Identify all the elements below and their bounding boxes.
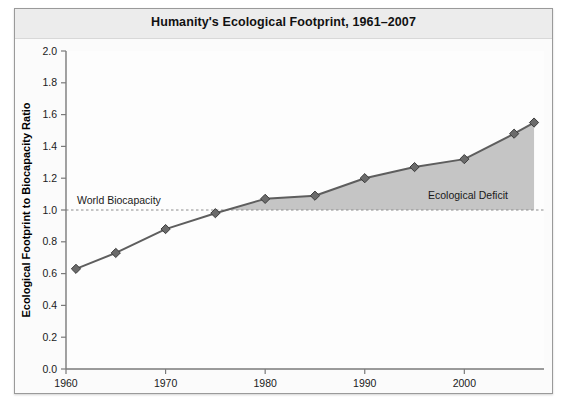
- y-axis-ticks: 0.00.20.40.60.81.01.21.41.61.82.0: [42, 45, 66, 375]
- svg-text:0.0: 0.0: [42, 363, 57, 375]
- svg-text:1960: 1960: [54, 377, 78, 389]
- svg-text:0.2: 0.2: [42, 331, 57, 343]
- svg-text:1.8: 1.8: [42, 76, 57, 88]
- line-chart: 0.00.20.40.60.81.01.21.41.61.82.0 196019…: [15, 9, 552, 393]
- svg-text:0.8: 0.8: [42, 235, 57, 247]
- svg-text:1990: 1990: [353, 377, 377, 389]
- svg-text:1970: 1970: [154, 377, 178, 389]
- chart-frame: Humanity's Ecological Footprint, 1961–20…: [14, 8, 553, 394]
- svg-text:1.4: 1.4: [42, 140, 57, 152]
- y-axis-title: Ecological Footprint to Biocapacity Rati…: [20, 102, 32, 317]
- svg-text:1.2: 1.2: [42, 172, 57, 184]
- svg-text:1.6: 1.6: [42, 108, 57, 120]
- svg-text:2000: 2000: [453, 377, 477, 389]
- figure-root: Humanity's Ecological Footprint, 1961–20…: [0, 0, 565, 404]
- svg-text:1.0: 1.0: [42, 204, 57, 216]
- svg-text:0.6: 0.6: [42, 267, 57, 279]
- annotation-world-biocapacity: World Biocapacity: [77, 194, 162, 206]
- x-axis-ticks: 19601970198019902000: [54, 369, 476, 389]
- svg-text:0.4: 0.4: [42, 299, 57, 311]
- svg-text:2.0: 2.0: [42, 45, 57, 57]
- svg-text:1980: 1980: [253, 377, 277, 389]
- annotation-ecological-deficit: Ecological Deficit: [428, 189, 508, 201]
